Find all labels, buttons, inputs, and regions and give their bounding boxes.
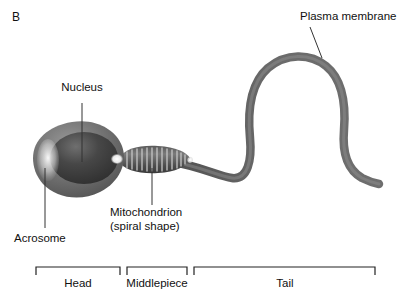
panel-label: B (12, 10, 20, 24)
bracket-head (36, 267, 120, 275)
acrosome-cap (37, 139, 59, 181)
diagram-canvas (0, 0, 415, 304)
label-nucleus: Nucleus (61, 81, 103, 94)
sperm-head (33, 121, 124, 197)
bracket-tail (194, 267, 375, 275)
label-acrosome: Acrosome (14, 232, 66, 245)
bracket-label-tail: Tail (276, 277, 293, 289)
label-plasma-membrane: Plasma membrane (300, 10, 397, 23)
bracket-label-middlepiece: Middlepiece (126, 277, 187, 289)
middlepiece-segment (118, 146, 193, 173)
label-mitochondrion-sub: (spiral shape) (110, 220, 180, 233)
neck-highlight (111, 154, 123, 164)
region-brackets (36, 267, 375, 275)
bracket-label-head: Head (64, 277, 92, 289)
sperm-cell-diagram: B Nucleus Acrosome Mitochondrion (spiral… (0, 0, 415, 304)
flagellum-tail (168, 56, 379, 184)
nucleus-oval (50, 132, 118, 184)
label-mitochondrion: Mitochondrion (110, 206, 182, 219)
bracket-middlepiece (127, 267, 187, 275)
leader-plasma-membrane (310, 27, 322, 58)
